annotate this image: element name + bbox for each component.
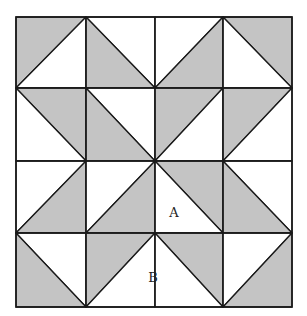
triangle-cells bbox=[16, 17, 292, 307]
quilt-block-diagram: A B bbox=[0, 0, 307, 316]
label-b: B bbox=[148, 270, 158, 285]
label-a: A bbox=[168, 205, 179, 220]
